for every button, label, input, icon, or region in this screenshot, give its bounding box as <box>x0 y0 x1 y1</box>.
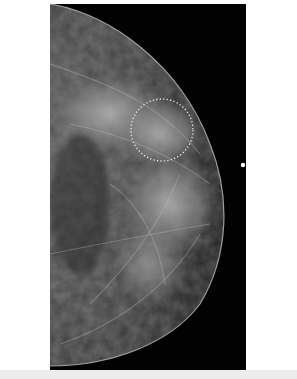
mammogram-graphic <box>50 4 246 370</box>
mammogram-image <box>50 4 246 370</box>
bottom-bar <box>0 370 297 379</box>
nipple-marker-dot <box>241 163 245 167</box>
